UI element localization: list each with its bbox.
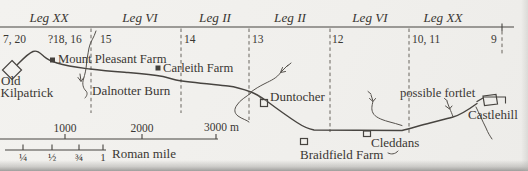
carleith-farm-marker [156,66,161,71]
roman-mile-tick-label: ¾ [75,151,83,163]
dalnotter-burn-label: Dalnotter Burn [92,83,171,98]
mount-pleasant-farm-marker [50,58,55,63]
legion-sector-label: Leg XX [28,10,69,25]
duntocher-burn-north-stream [251,65,288,92]
cleddans-burn-stream [371,95,402,126]
possible-fortlet-label: possible fortlet [400,86,476,100]
antonine-wall-map: Leg XX Leg VI Leg II Leg II Leg VI Leg X… [0,0,528,171]
legion-sector-label: Leg VI [121,10,158,25]
cleddans-label: Cleddans [371,135,419,150]
legion-sector-label: Leg II [273,10,306,25]
distance-slab-number: 14 [184,33,196,45]
roman-mile-scale-bar [5,145,106,151]
map-canvas: Leg XX Leg VI Leg II Leg II Leg VI Leg X… [0,0,528,171]
duntocher-label: Duntocher [270,89,326,104]
distance-slab-number: 12 [332,33,344,45]
distance-slab-number: 13 [252,33,264,45]
castlehill-wall-link [477,98,483,102]
legion-sector-label: Leg VI [351,10,388,25]
legion-sector-label: Leg II [198,10,231,25]
castlehill-fort-marker [483,95,498,106]
cleddans-burn-south-dash [388,151,398,154]
distance-slab-number: 10, 11 [412,33,441,46]
old-kilpatrick-label-line2: Kilpatrick [1,85,54,100]
carleith-farm-label: Carleith Farm [163,61,234,75]
metre-scale-tick-label: 2000 [131,122,154,134]
distance-slab-number: 15 [100,33,112,45]
metre-scale-bar [0,134,218,139]
legion-sector-label: Leg XX [422,10,463,25]
distance-slab-number: 7, 20 [3,33,26,46]
roman-mile-tick-label: ¼ [19,151,27,163]
braidfield-farm-marker [301,139,308,145]
roman-mile-tick-label: ½ [48,151,56,163]
cleddans-fortlet-marker [364,131,371,137]
mount-pleasant-farm-label: Mount Pleasant Farm [58,52,167,66]
roman-mile-tick-label: 1 [100,151,106,163]
distance-slab-number: 9 [491,33,497,45]
distance-slab-number: ?18, 16 [48,33,82,46]
duntocher-fortlet-marker [261,100,268,107]
roman-mile-caption: Roman mile [112,146,176,161]
metre-scale-tick-label: 3000 m [204,121,239,133]
castlehill-label: Castlehill [468,107,518,122]
metre-scale-tick-label: 1000 [54,122,77,134]
